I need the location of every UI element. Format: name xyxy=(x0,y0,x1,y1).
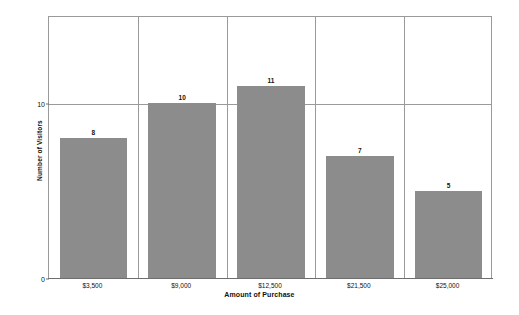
x-tick-label: $3,500 xyxy=(82,282,102,289)
bar[interactable]: 10 xyxy=(148,103,215,278)
x-tick-label: $25,000 xyxy=(436,282,460,289)
plot-area: 0108101175 xyxy=(48,16,492,278)
x-axis-line xyxy=(48,278,493,279)
bar[interactable]: 8 xyxy=(60,138,127,278)
x-tick-label: $21,500 xyxy=(347,282,371,289)
bar-value-label: 5 xyxy=(447,182,451,189)
bar[interactable]: 5 xyxy=(415,191,482,278)
x-axis-title: Amount of Purchase xyxy=(0,291,519,298)
bar-chart: Number of Visitors 0108101175 Amount of … xyxy=(0,0,519,315)
x-tick-label: $9,000 xyxy=(171,282,191,289)
category-separator xyxy=(315,17,316,278)
category-separator xyxy=(227,17,228,278)
bar-value-label: 10 xyxy=(179,94,186,101)
x-tick-label: $12,500 xyxy=(258,282,282,289)
category-separator xyxy=(138,17,139,278)
bar[interactable]: 7 xyxy=(326,156,393,278)
bar-value-label: 7 xyxy=(358,147,362,154)
bar-value-label: 8 xyxy=(92,129,96,136)
bar-value-label: 11 xyxy=(268,77,275,84)
y-tick-mark xyxy=(46,104,49,105)
bar[interactable]: 11 xyxy=(237,86,304,278)
y-axis-title: Number of Visitors xyxy=(36,71,43,231)
category-separator xyxy=(404,17,405,278)
y-tick-label: 10 xyxy=(37,101,45,108)
y-tick-label: 0 xyxy=(41,276,45,283)
